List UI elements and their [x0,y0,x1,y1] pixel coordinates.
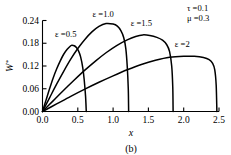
y-axis-title: W* [4,60,16,72]
figure-caption: (b) [125,143,137,155]
chart-canvas: 0.00 0.06 0.12 0.18 0.24 0.0 0.5 1.0 1.5… [0,0,231,155]
x-ticklabel: 0.0 [37,115,49,125]
annotation-mu: μ =0.3 [187,13,209,23]
curve-label: ε =0.5 [55,29,76,39]
y-axis-title-superscript: * [4,60,12,64]
y-axis-ticks [43,21,47,112]
x-ticklabel: 2.5 [213,115,225,125]
x-ticklabel: 2.0 [178,115,190,125]
x-axis-ticklabels: 0.0 0.5 1.0 1.5 2.0 2.5 [37,115,226,125]
data-curve [43,56,217,111]
x-ticklabel: 1.0 [107,115,119,125]
x-axis-title: x [128,127,134,138]
y-axis-ticklabels: 0.00 0.06 0.12 0.18 0.24 [22,16,39,117]
y-ticklabel: 0.18 [22,38,39,48]
x-ticklabel: 0.5 [72,115,84,125]
annotation-tau: τ =0.1 [187,3,208,13]
svg-text:W*: W* [4,60,16,72]
y-ticklabel: 0.12 [22,61,39,71]
y-ticklabel: 0.24 [22,16,39,26]
curve-label: ε =1.5 [131,18,152,28]
data-curve [43,45,87,111]
x-axis-ticks [43,108,220,112]
figure-panel-b: 0.00 0.06 0.12 0.18 0.24 0.0 0.5 1.0 1.5… [0,0,231,155]
curve-label: ε =2 [175,39,190,49]
x-ticklabel: 1.5 [142,115,154,125]
curve-label: ε =1.0 [93,9,114,19]
y-ticklabel: 0.06 [22,84,39,94]
